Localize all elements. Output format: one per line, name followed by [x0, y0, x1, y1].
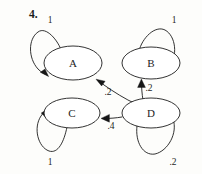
edge-d-to-b-arrowhead [138, 79, 146, 87]
edge-d-to-b-label: .2 [145, 83, 152, 93]
edge-d-to-a-label: .2 [104, 87, 111, 97]
self-loop-b-label: 1 [172, 15, 177, 25]
edge-d-to-c-label: .4 [107, 121, 114, 131]
node-c-label: C [68, 107, 75, 119]
node-a-label: A [69, 57, 77, 69]
self-loop-d-label: .2 [169, 157, 176, 167]
node-b-label: B [147, 57, 154, 69]
node-d-label: D [147, 107, 155, 119]
edge-d-to-b [138, 79, 146, 100]
self-loop-a-label: 1 [48, 15, 53, 25]
diagram-page: 4. [0, 0, 202, 174]
edge-d-to-a [96, 79, 136, 104]
state-diagram: A B C D 1 1 1 .2 .2 .2 .4 [0, 0, 202, 174]
self-loop-c-label: 1 [48, 157, 53, 167]
